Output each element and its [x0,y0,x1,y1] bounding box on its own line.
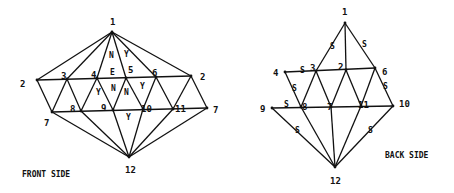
front-vertex-label: 8 [70,104,75,114]
front-side-caption: FRONT SIDE [22,170,70,179]
back-vertex-b4 [284,71,287,74]
front-edge-v6-v11 [156,77,173,109]
front-edge-v7L-v12 [52,112,129,157]
back-vertex-b1 [344,22,347,25]
front-edge-v4-v8 [81,78,97,111]
front-vertex-v7L [51,111,54,114]
front-vertex-label: 5 [128,65,133,75]
back-vertex-label: 8 [302,102,307,112]
front-face-label: E [110,68,115,77]
front-face-label: N [111,84,116,93]
back-edge-mark: S [362,40,367,49]
back-vertex-b6 [374,67,377,70]
back-edge-b9-b10 [272,106,393,108]
front-edge-v1-v3 [67,32,112,79]
front-vertex-v2R [190,75,193,78]
front-vertex-label: 1 [110,17,115,27]
back-edge-mark: S [284,100,289,109]
front-face-label: Y [96,88,101,97]
back-vertex-label: 4 [273,68,279,78]
front-vertex-label: 9 [101,103,106,113]
front-vertex-v5 [125,77,128,80]
back-edge-b8-b12 [301,107,335,167]
front-vertex-v12 [128,156,131,159]
front-vertex-label: 10 [141,104,152,114]
back-edge-b4-b6 [285,68,375,72]
back-edge-mark: S [292,84,297,93]
front-face-label: Y [124,50,129,59]
back-vertex-b10 [392,105,395,108]
back-edge-b7-b12 [331,107,335,167]
back-vertex-label: 6 [382,67,387,77]
back-vertex-label: 12 [330,176,341,186]
front-face-label: Y [126,113,131,122]
front-vertex-v11 [172,108,175,111]
back-edge-mark: S [330,42,335,51]
front-vertex-v7R [206,107,209,110]
back-edge-b1-b2 [345,23,346,70]
front-vertex-v8 [80,110,83,113]
front-edge-v1-v2L [37,32,112,80]
back-vertex-label: 11 [358,100,369,110]
front-face-label: N [124,88,129,97]
back-edge-mark: S [300,66,305,75]
back-edge-b9-b12 [272,108,335,167]
front-vertex-label: 6 [152,68,157,78]
front-vertex-v9 [112,109,115,112]
back-edge-mark: S [368,126,373,135]
front-vertex-v1 [111,31,114,34]
back-edge-b2-b7 [331,70,346,107]
front-vertex-label: 11 [175,104,186,114]
back-edge-mark: S [383,82,388,91]
front-vertex-label: 3 [61,71,66,81]
back-vertex-label: 2 [338,62,343,72]
front-vertex-label: 2 [200,72,205,82]
front-side-edges [37,32,207,157]
front-vertex-label: 4 [91,70,97,80]
back-vertex-b9 [271,107,274,110]
back-edge-mark: S [295,126,300,135]
back-vertex-label: 10 [399,99,410,109]
front-edge-v2L-v7L [37,80,52,112]
front-vertex-label: 7 [213,105,218,115]
back-side-edge-marks: SSSSSSSS [284,40,388,135]
front-vertex-label: 2 [20,79,25,89]
polyhedron-net-diagram: 12345627891011712 NYEYNNYY FRONT SIDE 14… [0,0,454,193]
back-side-caption: BACK SIDE [385,151,429,160]
back-edge-b11-b12 [335,106,361,167]
front-vertex-v2L [36,79,39,82]
back-vertex-label: 9 [260,104,265,114]
front-face-label: N [109,51,114,60]
back-vertex-b12 [334,166,337,169]
front-face-label: Y [140,82,145,91]
back-vertex-label: 7 [327,102,332,112]
back-edge-b1-b6 [345,23,375,68]
front-vertex-label: 7 [44,118,49,128]
back-vertex-b2 [345,69,348,72]
front-edge-v3-v7L [52,79,67,112]
front-vertex-label: 12 [125,165,136,175]
back-vertex-label: 1 [342,7,347,17]
back-vertex-label: 3 [310,63,315,73]
